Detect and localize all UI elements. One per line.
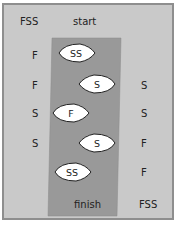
boat-4-label: S	[87, 139, 107, 149]
boat-2-label: S	[87, 80, 107, 90]
finish-label: finish	[74, 200, 101, 210]
left-bank-label-2: F	[32, 81, 38, 91]
right-bank-label-2: S	[141, 109, 147, 119]
boat-1-label: SS	[66, 49, 86, 59]
river-band	[4, 5, 176, 222]
boat-3-label: F	[61, 109, 81, 119]
finish-bank-label: FSS	[139, 200, 157, 210]
left-bank-label-4: S	[32, 139, 38, 149]
left-bank-label-1: F	[32, 51, 38, 61]
start-label: start	[73, 17, 96, 27]
right-bank-label-3: F	[141, 139, 147, 149]
boat-5-label: SS	[62, 168, 82, 178]
right-bank-label-4: F	[141, 168, 147, 178]
left-bank-label-3: S	[32, 109, 38, 119]
start-bank-label: FSS	[20, 17, 38, 27]
right-bank-label-1: S	[141, 81, 147, 91]
diagram-frame: FSS start F F S S S S F F finish FSS SS …	[2, 3, 174, 220]
